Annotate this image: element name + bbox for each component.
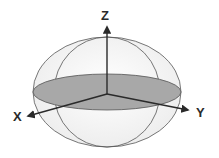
x-axis-label: X [13,109,22,124]
y-axis-label: Y [196,105,205,120]
ellipsoid-diagram: Z X Y [0,0,219,158]
z-axis-label: Z [101,8,109,23]
